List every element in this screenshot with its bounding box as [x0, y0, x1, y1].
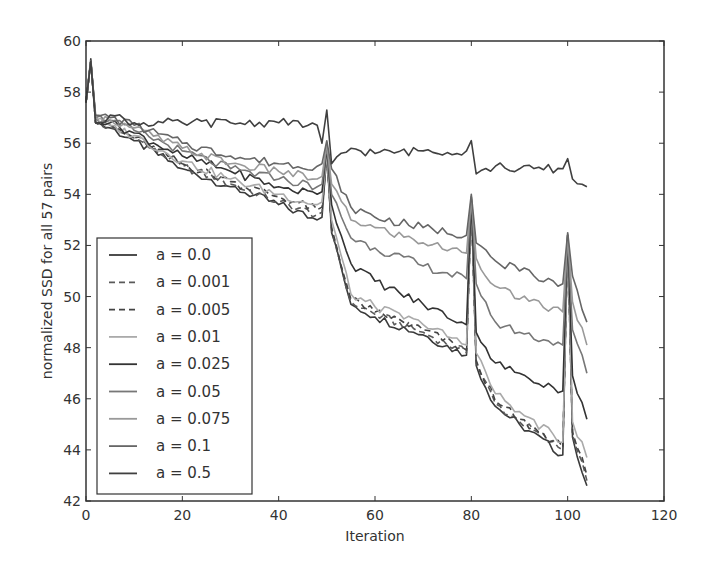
y-tick-label: 60	[63, 33, 81, 49]
legend-label: a = 0.075	[156, 410, 230, 428]
legend-label: a = 0.005	[156, 301, 230, 319]
y-tick-label: 46	[63, 391, 81, 407]
legend-label: a = 0.05	[156, 383, 221, 401]
legend-label: a = 0.01	[156, 328, 221, 346]
legend-label: a = 0.1	[156, 437, 211, 455]
x-tick-label: 120	[651, 507, 678, 523]
x-tick-label: 80	[462, 507, 480, 523]
legend: a = 0.0a = 0.001a = 0.005a = 0.01a = 0.0…	[97, 238, 252, 494]
legend-label: a = 0.025	[156, 355, 230, 373]
x-tick-label: 100	[554, 507, 581, 523]
y-tick-label: 52	[63, 237, 81, 253]
y-tick-label: 48	[63, 340, 81, 356]
y-tick-label: 50	[63, 289, 81, 305]
y-tick-label: 54	[63, 186, 81, 202]
legend-label: a = 0.5	[156, 464, 211, 482]
legend-label: a = 0.0	[156, 246, 211, 264]
x-tick-label: 0	[82, 507, 91, 523]
series-line	[86, 61, 587, 186]
x-tick-label: 40	[270, 507, 288, 523]
y-axis-label: normalized SSD for all 57 pairs	[39, 163, 55, 379]
y-tick-label: 44	[63, 442, 81, 458]
x-tick-label: 20	[173, 507, 191, 523]
y-tick-label: 58	[63, 84, 81, 100]
x-tick-label: 60	[366, 507, 384, 523]
y-tick-label: 42	[63, 493, 81, 509]
line-chart: 02040608010012042444648505254565860 Iter…	[0, 0, 711, 572]
y-tick-label: 56	[63, 135, 81, 151]
legend-label: a = 0.001	[156, 273, 230, 291]
x-axis-label: Iteration	[345, 528, 404, 544]
